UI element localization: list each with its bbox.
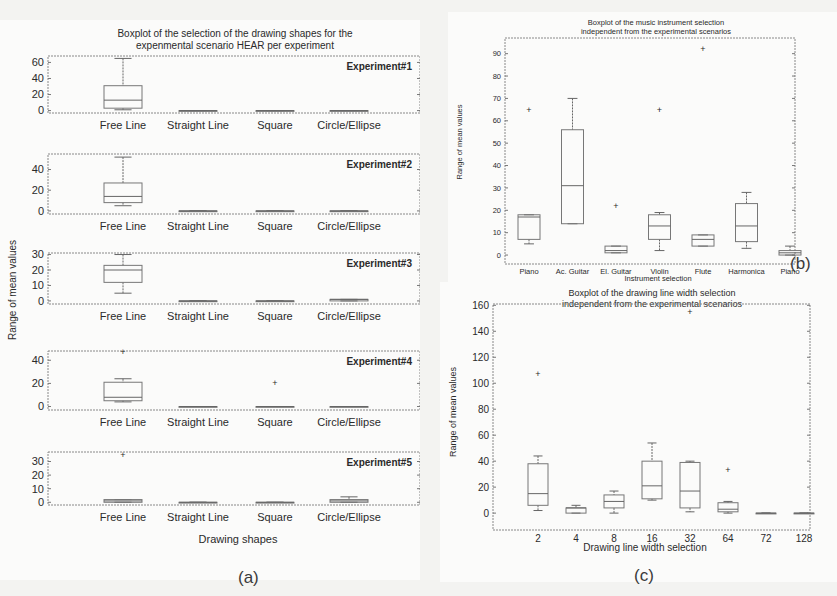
box — [104, 157, 142, 206]
outlier-marker: + — [725, 465, 730, 475]
x-tick-label: Straight Line — [167, 416, 229, 428]
figure-panel-a: Boxplot of the selection of the drawing … — [0, 20, 420, 580]
box: + — [104, 450, 142, 503]
box: + — [518, 105, 540, 244]
subplot-label: Experiment#1 — [346, 61, 412, 72]
x-tick-label: Free Line — [100, 220, 146, 232]
outlier-marker: + — [687, 307, 692, 317]
outlier-marker: + — [613, 201, 618, 211]
x-tick-label: 128 — [796, 533, 813, 544]
box — [179, 407, 217, 408]
y-tick-label: 10 — [32, 279, 44, 291]
box: + — [680, 307, 700, 512]
x-tick-label: 2 — [535, 533, 541, 544]
figure-panel-c: Boxplot of the drawing line width select… — [440, 282, 837, 582]
figure-panel-b: Boxplot of the music instrument selectio… — [448, 12, 837, 282]
box: + — [528, 369, 548, 510]
x-tick-label: Square — [257, 511, 292, 523]
y-axis-label: Range of mean values — [448, 366, 458, 457]
x-tick-label: Straight Line — [167, 511, 229, 523]
y-tick-label: 20 — [32, 264, 44, 276]
box — [736, 192, 758, 248]
box: + — [605, 201, 627, 253]
y-tick-label: 20 — [32, 88, 44, 100]
y-tick-label: 20 — [32, 184, 44, 196]
y-axis-label: Range of mean values — [455, 104, 464, 179]
box — [256, 111, 294, 112]
y-axis-label: Range of mean values — [7, 240, 18, 340]
y-tick-label: 160 — [472, 300, 489, 311]
y-tick-label: 0 — [483, 508, 489, 519]
x-tick-label: Square — [257, 416, 292, 428]
y-tick-label: 60 — [478, 430, 490, 441]
y-tick-label: 20 — [478, 482, 490, 493]
outlier-marker: + — [120, 450, 125, 460]
x-tick-label: Free Line — [100, 119, 146, 131]
y-tick-label: 20 — [32, 469, 44, 481]
y-tick-label: 0 — [497, 251, 501, 260]
y-tick-label: 30 — [32, 455, 44, 467]
box — [179, 111, 217, 112]
chart-title: Boxplot of the selection of the drawing … — [117, 28, 353, 39]
box — [256, 301, 294, 302]
box — [756, 513, 776, 514]
box — [604, 491, 624, 513]
chart-title: Boxplot of the music instrument selectio… — [588, 18, 724, 27]
outlier-marker: + — [526, 105, 531, 115]
box — [794, 513, 814, 514]
box: + — [256, 378, 294, 407]
x-tick-label: Flute — [695, 267, 712, 276]
x-tick-label: Free Line — [100, 511, 146, 523]
subplot-label: Experiment#4 — [346, 356, 412, 367]
x-tick-label: Free Line — [100, 310, 146, 322]
box — [104, 255, 142, 294]
x-tick-label: Harmonica — [728, 267, 765, 276]
box — [330, 299, 368, 301]
y-tick-label: 80 — [493, 72, 501, 81]
y-tick-label: 40 — [32, 354, 44, 366]
x-tick-label: Free Line — [100, 416, 146, 428]
box — [642, 443, 662, 500]
y-tick-label: 60 — [493, 116, 501, 125]
y-tick-label: 50 — [493, 139, 501, 148]
box — [330, 407, 368, 408]
caption-b: (b) — [790, 254, 811, 274]
box: + — [718, 465, 738, 513]
x-tick-label: Square — [257, 310, 292, 322]
subplot-label: Experiment#3 — [346, 258, 412, 269]
x-axis-label: Drawing shapes — [199, 533, 278, 545]
y-tick-label: 40 — [493, 161, 501, 170]
box: + — [649, 105, 671, 251]
x-axis-label: Drawing line width selection — [583, 542, 706, 553]
box — [562, 98, 584, 223]
box — [256, 502, 294, 503]
x-tick-label: Square — [257, 119, 292, 131]
chart-title: expenmental scenario HEAR per experiment — [136, 40, 334, 51]
y-tick-label: 30 — [493, 184, 501, 193]
y-tick-label: 80 — [478, 404, 490, 415]
y-tick-label: 20 — [32, 377, 44, 389]
chart-title: independent from the experimental scenar… — [581, 27, 731, 36]
y-tick-label: 30 — [32, 248, 44, 260]
y-tick-label: 40 — [478, 456, 490, 467]
x-tick-label: Straight Line — [167, 310, 229, 322]
y-tick-label: 0 — [38, 205, 44, 217]
box: + — [104, 347, 142, 402]
box: + — [692, 44, 714, 246]
outlier-marker: + — [700, 44, 705, 54]
y-tick-label: 70 — [493, 94, 501, 103]
box — [179, 502, 217, 503]
x-tick-label: Circle/Ellipse — [317, 511, 381, 523]
x-tick-label: Circle/Ellipse — [317, 119, 381, 131]
caption-c: (c) — [634, 566, 654, 586]
y-tick-label: 0 — [38, 496, 44, 508]
box — [330, 497, 368, 502]
x-tick-label: Piano — [519, 267, 538, 276]
x-tick-label: Straight Line — [167, 220, 229, 232]
box — [179, 211, 217, 212]
x-tick-label: Circle/Ellipse — [317, 416, 381, 428]
y-tick-label: 90 — [493, 49, 501, 58]
box — [566, 505, 586, 513]
boxplot-music-instrument: Boxplot of the music instrument selectio… — [448, 12, 837, 282]
x-tick-label: Square — [257, 220, 292, 232]
